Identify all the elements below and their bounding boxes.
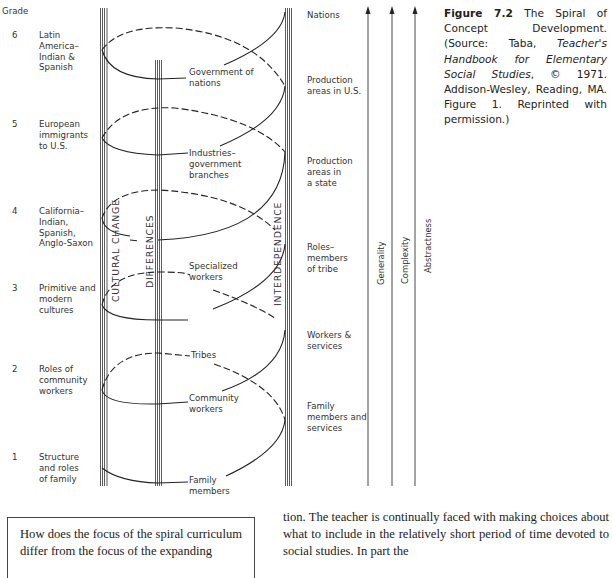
body-paragraph: tion. The teacher is continually faced w… [283, 509, 609, 560]
grade-number: 5 [12, 119, 17, 129]
grade-number: 2 [12, 364, 17, 374]
spiral-label-line: nations [189, 78, 254, 89]
grade-label: Roles of community workers [39, 364, 87, 396]
grade-label: Structure and roles of family [39, 452, 79, 484]
grade-label-line: Latin [39, 30, 79, 41]
question-text: How does the focus of the spiral curricu… [20, 526, 242, 560]
right-label-line: a state [307, 178, 353, 189]
complexity-label: Complexity [400, 237, 410, 284]
grade-label-line: Spanish, [39, 228, 93, 239]
right-label-line: Family [307, 401, 367, 412]
figure-caption: Figure 7.2 The Spiral of Concept Develop… [444, 6, 607, 128]
grade-label-line: Anglo-Saxon [39, 238, 93, 249]
grade-label-line: Primitive and [39, 283, 96, 294]
grade-number: 4 [12, 206, 17, 216]
right-label-nations: Nations [307, 10, 340, 21]
spiral-label-line: Government of [189, 67, 254, 78]
spiral-label-industries: Industries– government branches [189, 148, 241, 180]
spiral-label-line: government [189, 159, 241, 170]
right-label-production-us: Production areas in U.S. [307, 75, 361, 97]
right-label-line: members and [307, 412, 367, 423]
right-label-line: areas in U.S. [307, 86, 361, 97]
right-label-production-state: Production areas in a state [307, 156, 353, 188]
figure-number: Figure 7.2 [444, 7, 513, 19]
differences-label: DIFFERENCES [144, 215, 155, 288]
grade-header: Grade [2, 6, 28, 17]
right-label-line: services [307, 341, 351, 352]
grade-label-line: immigrants [39, 130, 88, 141]
spiral-label-government: Government of nations [189, 67, 254, 89]
grade-label: Latin America– Indian & Spanish [39, 30, 79, 73]
grade-label: California– Indian, Spanish, Anglo-Saxon [39, 206, 93, 249]
spiral-label-line: branches [189, 170, 241, 181]
cultural-change-label: CULTURAL CHANGE [110, 199, 121, 302]
grade-label-line: community [39, 375, 87, 386]
grade-number: 3 [12, 283, 17, 293]
right-label-line: Workers & [307, 330, 351, 341]
spiral-label-tribes: Tribes [191, 350, 216, 361]
generality-label: Generality [376, 241, 386, 285]
spiral-label-line: workers [189, 404, 239, 415]
grade-label-line: cultures [39, 305, 96, 316]
right-label-workers: Workers & services [307, 330, 351, 352]
grade-label-line: Structure [39, 452, 79, 463]
right-label-line: Production [307, 156, 353, 167]
grade-label-line: of family [39, 474, 79, 485]
right-label-line: Production [307, 75, 361, 86]
grade-label-line: modern [39, 294, 96, 305]
grade-label-line: and roles [39, 463, 79, 474]
grade-label: Primitive and modern cultures [39, 283, 96, 315]
right-label-line: members [307, 253, 348, 264]
grade-label-line: Indian, [39, 217, 93, 228]
right-label-roles-tribe: Roles– members of tribe [307, 242, 348, 274]
grade-label-line: California– [39, 206, 93, 217]
spiral-label-specialized: Specialized workers [189, 261, 238, 283]
spiral-label-community: Community workers [189, 393, 239, 415]
right-label-line: of tribe [307, 264, 348, 275]
spiral-label-line: Tribes [191, 350, 216, 361]
spiral-label-line: Community [189, 393, 239, 404]
spiral-label-family: Family members [189, 475, 230, 497]
grade-label: European immigrants to U.S. [39, 119, 88, 151]
grade-label-line: Spanish [39, 62, 79, 73]
right-label-line: areas in [307, 167, 353, 178]
grade-label-line: European [39, 119, 88, 130]
right-label-family: Family members and services [307, 401, 367, 433]
grade-label-line: Indian & [39, 52, 79, 63]
right-label-line: services [307, 423, 367, 434]
spiral-label-line: Specialized [189, 261, 238, 272]
spiral-label-line: Family [189, 475, 230, 486]
grade-label-line: to U.S. [39, 141, 88, 152]
grade-label-line: America– [39, 41, 79, 52]
interdependence-label: INTERDEPENDENCE [272, 202, 283, 306]
grade-number: 1 [12, 452, 17, 462]
grade-label-line: Roles of [39, 364, 87, 375]
abstractness-label: Abstractness [423, 219, 433, 273]
grade-label-line: workers [39, 386, 87, 397]
spiral-label-line: Industries– [189, 148, 241, 159]
right-label-line: Roles– [307, 242, 348, 253]
spiral-label-line: workers [189, 272, 238, 283]
grade-number: 6 [12, 30, 17, 40]
right-label-line: Nations [307, 10, 340, 21]
spiral-label-line: members [189, 486, 230, 497]
